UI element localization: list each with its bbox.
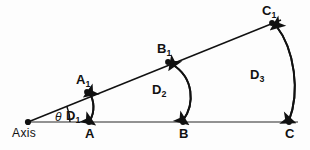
d3-subscript: 3 — [259, 74, 264, 84]
apex-point — [25, 119, 31, 125]
upper-ray — [28, 20, 281, 122]
point-b-dot — [180, 119, 186, 125]
d2-subscript: 2 — [161, 89, 166, 99]
point-a1-subscript: 1 — [85, 79, 90, 89]
d1-subscript: 1 — [75, 115, 80, 125]
point-c1-subscript: 1 — [271, 10, 276, 20]
point-b1-subscript: 1 — [166, 48, 171, 58]
arc-d2-reverse-head — [173, 65, 191, 121]
point-c-label: C — [285, 127, 294, 140]
theta-label: θ — [55, 111, 62, 123]
d1-base: D — [66, 108, 75, 123]
point-a1-base: A — [76, 72, 85, 87]
point-c1-dot — [269, 20, 275, 26]
d2-base: D — [152, 82, 161, 97]
d3-base: D — [250, 67, 259, 82]
angular-displacement-diagram: Axis θ A B C A1 B1 C1 D1 D2 D3 — [0, 0, 310, 150]
point-a1-dot — [84, 89, 90, 95]
point-a-label: A — [85, 127, 94, 140]
point-a1-label: A1 — [76, 73, 90, 88]
d3-label: D3 — [250, 68, 264, 83]
d2-label: D2 — [152, 83, 166, 98]
point-c1-base: C — [262, 3, 271, 18]
point-b1-base: B — [157, 41, 166, 56]
point-b1-dot — [165, 59, 171, 65]
point-c-dot — [286, 119, 292, 125]
point-c1-label: C1 — [262, 4, 276, 19]
point-b-label: B — [179, 127, 188, 140]
axis-label: Axis — [12, 127, 36, 139]
arc-d3-reverse-head — [276, 26, 295, 121]
d1-label: D1 — [66, 109, 80, 124]
point-a-dot — [86, 119, 92, 125]
point-b1-label: B1 — [157, 42, 171, 57]
